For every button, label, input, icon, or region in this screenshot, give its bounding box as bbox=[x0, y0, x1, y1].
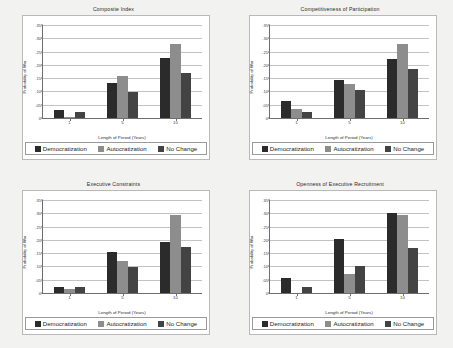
x-axis-title: Length of Period (Years) bbox=[269, 310, 429, 315]
bar-autocratization-10 bbox=[397, 44, 408, 118]
bar-group-5: 5 bbox=[96, 25, 149, 118]
plot-area: 0.05.10.15.20.25.30.351510 bbox=[269, 200, 429, 294]
legend-item-no-change[interactable]: No Change bbox=[158, 320, 197, 327]
legend-item-no-change[interactable]: No Change bbox=[385, 145, 424, 152]
legend-label: No Change bbox=[393, 320, 424, 327]
bar-democratization-10 bbox=[160, 58, 171, 118]
y-tick-label: .05 bbox=[35, 277, 41, 282]
x-tick-label: 1 bbox=[43, 295, 96, 300]
chart-title: Composite Index bbox=[0, 6, 227, 12]
bar-groups: 1510 bbox=[270, 200, 429, 293]
bar-group-1: 1 bbox=[270, 25, 323, 118]
legend-label: Autocratization bbox=[106, 145, 146, 152]
legend-item-democratization[interactable]: Democratization bbox=[262, 320, 314, 327]
legend-swatch-icon bbox=[385, 146, 391, 152]
legend-swatch-icon bbox=[262, 321, 268, 327]
y-tick-label: .10 bbox=[262, 89, 268, 94]
x-tick-label: 10 bbox=[149, 120, 202, 125]
chart-legend: DemocratizationAutocratizationNo Change bbox=[25, 142, 207, 155]
y-tick-label: .25 bbox=[35, 224, 41, 229]
y-axis-title: Probability of War bbox=[22, 61, 27, 94]
y-tick-label: .20 bbox=[35, 62, 41, 67]
y-tick-label: .35 bbox=[35, 198, 41, 203]
bar-group-5: 5 bbox=[323, 200, 376, 293]
bar-group-10: 10 bbox=[149, 200, 202, 293]
chart-panel-1: Composite IndexProbability of WarLength … bbox=[0, 0, 227, 175]
legend-label: No Change bbox=[166, 320, 197, 327]
legend-item-democratization[interactable]: Democratization bbox=[35, 320, 87, 327]
legend-label: Democratization bbox=[43, 320, 87, 327]
y-tick-label: .35 bbox=[262, 198, 268, 203]
bar-group-1: 1 bbox=[43, 200, 96, 293]
bar-democratization-1 bbox=[54, 287, 65, 293]
y-tick-label: .20 bbox=[262, 237, 268, 242]
y-tick-label: .05 bbox=[262, 102, 268, 107]
legend-label: Autocratization bbox=[106, 320, 146, 327]
bar-autocratization-5 bbox=[117, 76, 128, 118]
bar-democratization-1 bbox=[281, 101, 292, 118]
y-tick-label: .30 bbox=[35, 211, 41, 216]
y-tick-label: .10 bbox=[35, 89, 41, 94]
chart-title: Openness of Executive Recruitment bbox=[227, 181, 453, 187]
chart-legend: DemocratizationAutocratizationNo Change bbox=[252, 317, 434, 330]
legend-item-democratization[interactable]: Democratization bbox=[35, 145, 87, 152]
legend-label: Autocratization bbox=[333, 145, 373, 152]
legend-swatch-icon bbox=[385, 321, 391, 327]
bar-no-change-5 bbox=[355, 266, 366, 293]
legend-item-no-change[interactable]: No Change bbox=[158, 145, 197, 152]
legend-item-no-change[interactable]: No Change bbox=[385, 320, 424, 327]
legend-item-democratization[interactable]: Democratization bbox=[262, 145, 314, 152]
bar-groups: 1510 bbox=[43, 25, 202, 118]
chart-panel-4: Openness of Executive RecruitmentProbabi… bbox=[227, 175, 453, 348]
x-tick-label: 5 bbox=[96, 295, 149, 300]
chart-panel-3: Executive ConstraintsProbability of WarL… bbox=[0, 175, 227, 348]
x-tick-label: 5 bbox=[323, 295, 376, 300]
bar-democratization-5 bbox=[334, 239, 345, 293]
y-tick-label: .15 bbox=[35, 251, 41, 256]
bar-groups: 1510 bbox=[270, 25, 429, 118]
y-tick-label: 0 bbox=[39, 116, 41, 121]
bar-no-change-10 bbox=[181, 247, 192, 294]
bar-democratization-10 bbox=[387, 59, 398, 118]
legend-swatch-icon bbox=[262, 146, 268, 152]
legend-item-autocratization[interactable]: Autocratization bbox=[325, 145, 373, 152]
y-tick-label: .20 bbox=[262, 62, 268, 67]
bar-democratization-5 bbox=[107, 252, 118, 293]
legend-label: Autocratization bbox=[333, 320, 373, 327]
y-tick-label: .30 bbox=[35, 36, 41, 41]
bar-no-change-5 bbox=[128, 267, 139, 293]
legend-item-autocratization[interactable]: Autocratization bbox=[98, 145, 146, 152]
x-tick-label: 10 bbox=[376, 295, 429, 300]
legend-swatch-icon bbox=[98, 146, 104, 152]
legend-item-autocratization[interactable]: Autocratization bbox=[98, 320, 146, 327]
bar-no-change-10 bbox=[408, 69, 419, 118]
legend-item-autocratization[interactable]: Autocratization bbox=[325, 320, 373, 327]
bar-no-change-1 bbox=[75, 112, 86, 118]
chart-legend: DemocratizationAutocratizationNo Change bbox=[252, 142, 434, 155]
y-tick-label: .20 bbox=[35, 237, 41, 242]
bar-no-change-5 bbox=[355, 90, 366, 118]
bar-groups: 1510 bbox=[43, 200, 202, 293]
legend-label: Democratization bbox=[270, 320, 314, 327]
x-tick-label: 1 bbox=[270, 295, 323, 300]
legend-label: Democratization bbox=[43, 145, 87, 152]
bar-autocratization-10 bbox=[170, 215, 181, 293]
x-tick-label: 1 bbox=[270, 120, 323, 125]
y-tick-label: 0 bbox=[266, 291, 268, 296]
bar-autocratization-10 bbox=[170, 44, 181, 118]
bar-no-change-1 bbox=[75, 287, 86, 293]
y-axis-title: Probability of War bbox=[22, 236, 27, 269]
y-tick-label: .35 bbox=[35, 23, 41, 28]
legend-swatch-icon bbox=[158, 146, 164, 152]
plot-area-wrapper: Probability of WarLength of Period (Year… bbox=[257, 196, 433, 308]
bar-group-10: 10 bbox=[376, 25, 429, 118]
plot-area: 0.05.10.15.20.25.30.351510 bbox=[42, 200, 202, 294]
legend-swatch-icon bbox=[158, 321, 164, 327]
y-tick-label: .15 bbox=[262, 76, 268, 81]
bar-autocratization-5 bbox=[344, 84, 355, 118]
x-tick-label: 5 bbox=[323, 120, 376, 125]
plot-area: 0.05.10.15.20.25.30.351510 bbox=[42, 25, 202, 119]
bar-no-change-5 bbox=[128, 92, 139, 118]
bar-group-10: 10 bbox=[149, 25, 202, 118]
legend-swatch-icon bbox=[325, 321, 331, 327]
